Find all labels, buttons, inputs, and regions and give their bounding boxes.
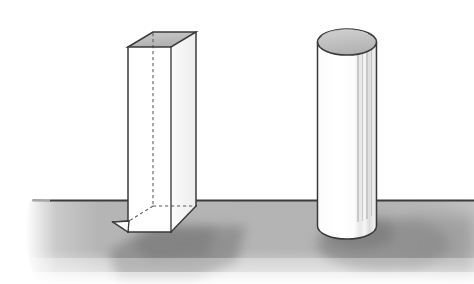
figure-canvas xyxy=(0,0,474,284)
cylinder-body xyxy=(318,42,377,239)
horizon-left-fade xyxy=(28,201,50,202)
box-side-face xyxy=(171,32,196,232)
cylinder xyxy=(318,29,377,239)
canvas-left-fade xyxy=(0,190,26,284)
box-front-face xyxy=(128,47,171,232)
illustration-svg xyxy=(0,0,474,284)
canvas-bottom-fade-2 xyxy=(0,272,474,284)
